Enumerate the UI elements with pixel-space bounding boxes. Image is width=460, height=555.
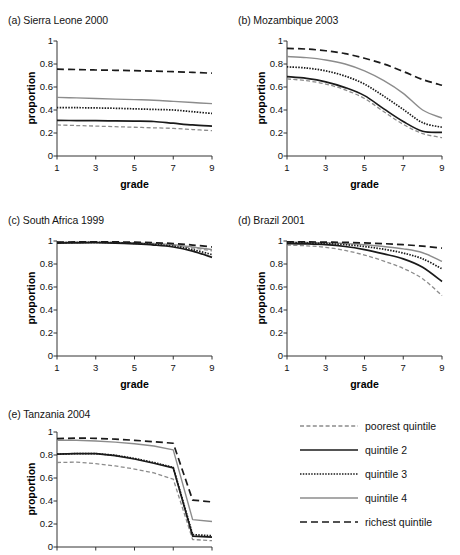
y-axis-label-b: proportion bbox=[255, 66, 267, 130]
series-line-quintile-2 bbox=[57, 454, 212, 538]
panel-title-a: (a) Sierra Leone 2000 bbox=[8, 14, 108, 26]
legend-key-long-dash-dark bbox=[300, 516, 358, 528]
series-line-quintile-4 bbox=[57, 440, 212, 521]
series-line-quintile-2 bbox=[57, 243, 212, 258]
series-line-quintile-4 bbox=[287, 242, 442, 261]
legend-label-2: quintile 3 bbox=[365, 468, 407, 480]
legend-key-dotted-dark bbox=[300, 468, 358, 480]
plot-area-d bbox=[277, 231, 452, 366]
y-axis-label-c: proportion bbox=[25, 266, 37, 330]
series-line-quintile-2 bbox=[287, 77, 442, 133]
legend-item-richest-quintile: richest quintile bbox=[300, 516, 432, 528]
series-line-poorest-quintile bbox=[287, 79, 442, 138]
x-axis-label-b: grade bbox=[287, 178, 442, 190]
legend-key-short-dash-gray bbox=[300, 420, 358, 432]
panel-title-b: (b) Mozambique 2003 bbox=[238, 14, 338, 26]
legend-label-0: poorest quintile bbox=[365, 420, 436, 432]
legend-item-quintile-2: quintile 2 bbox=[300, 444, 407, 456]
x-axis-label-a: grade bbox=[57, 178, 212, 190]
panel-title-c: (c) South Africa 1999 bbox=[8, 214, 104, 226]
panel-title-d: (d) Brazil 2001 bbox=[238, 214, 305, 226]
legend-key-solid-dark bbox=[300, 444, 358, 456]
series-line-poorest-quintile bbox=[287, 245, 442, 296]
legend-item-quintile-4: quintile 4 bbox=[300, 492, 407, 504]
x-axis-label-c: grade bbox=[57, 378, 212, 390]
series-line-quintile-3 bbox=[287, 67, 442, 127]
series-line-quintile-4 bbox=[57, 97, 212, 103]
legend-key-solid-gray bbox=[300, 492, 358, 504]
plot-area-c bbox=[47, 231, 222, 366]
x-axis-label-d: grade bbox=[287, 378, 442, 390]
chart-legend: poorest quintilequintile 2quintile 3quin… bbox=[300, 420, 460, 540]
axis-lines-d bbox=[287, 241, 442, 356]
plot-area-b bbox=[277, 31, 452, 166]
y-axis-label-e: proportion bbox=[25, 457, 37, 521]
series-line-quintile-3 bbox=[57, 108, 212, 114]
legend-item-poorest-quintile: poorest quintile bbox=[300, 420, 436, 432]
series-line-poorest-quintile bbox=[57, 125, 212, 131]
series-line-quintile-4 bbox=[287, 57, 442, 119]
axis-lines-c bbox=[57, 241, 212, 356]
plot-area-a bbox=[47, 31, 222, 166]
series-line-richest-quintile bbox=[57, 69, 212, 73]
series-line-quintile-2 bbox=[57, 120, 212, 126]
legend-label-1: quintile 2 bbox=[365, 444, 407, 456]
series-line-richest-quintile bbox=[57, 438, 212, 502]
legend-item-quintile-3: quintile 3 bbox=[300, 468, 407, 480]
plot-area-e bbox=[47, 422, 222, 555]
legend-label-3: quintile 4 bbox=[365, 492, 407, 504]
series-line-poorest-quintile bbox=[57, 462, 212, 541]
panel-title-e: (e) Tanzania 2004 bbox=[8, 408, 90, 420]
legend-label-4: richest quintile bbox=[365, 516, 432, 528]
y-axis-label-d: proportion bbox=[255, 266, 267, 330]
y-axis-label-a: proportion bbox=[25, 66, 37, 130]
